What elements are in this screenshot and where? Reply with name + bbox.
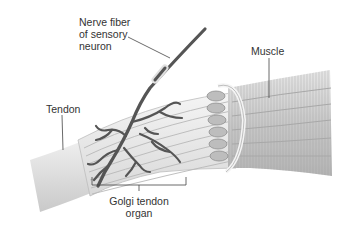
nerve-fiber-label: Nerve fiber of sensory neuron	[79, 16, 130, 52]
nerve-fiber-leader	[128, 37, 170, 58]
golgi-tendon-organ-label: Golgi tendon organ	[106, 195, 172, 219]
nerve-fiber-label-line-2: of sensory	[79, 28, 130, 40]
nerve-fiber-label-line-3: neuron	[79, 40, 130, 52]
golgi-label-line-1: Golgi tendon	[106, 195, 172, 207]
golgi-label-line-2: organ	[106, 207, 172, 219]
golgi-tendon-organ-diagram: Nerve fiber of sensory neuron Muscle Ten…	[0, 0, 352, 234]
anatomy-illustration	[0, 0, 352, 234]
tendon-label: Tendon	[46, 103, 80, 115]
tendon-leader	[62, 115, 63, 150]
nerve-fiber-label-line-1: Nerve fiber	[79, 16, 130, 28]
muscle-label: Muscle	[251, 45, 284, 57]
